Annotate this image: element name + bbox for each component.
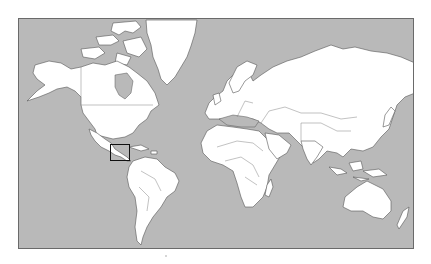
world-map — [18, 18, 414, 249]
image-artifact-speck — [165, 255, 167, 257]
world-map-svg — [19, 19, 414, 249]
landmass-south-america — [127, 157, 179, 245]
landmass-caribbean — [129, 145, 157, 154]
landmass-north-america — [27, 61, 159, 139]
landmass-australia — [343, 181, 391, 219]
landmass-greenland — [146, 20, 197, 85]
landmass-new-zealand — [397, 207, 409, 229]
landmass-arctic-islands — [81, 21, 147, 65]
highlight-box-central-america — [110, 144, 130, 161]
landmass-india — [301, 141, 323, 165]
landmass-indonesia — [329, 161, 387, 181]
